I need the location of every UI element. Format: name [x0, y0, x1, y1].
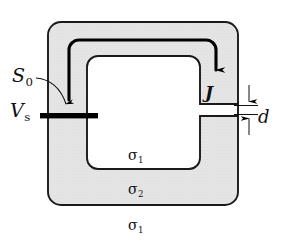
- label-current-density-j: J: [205, 84, 213, 101]
- conductor-body: [0, 0, 285, 248]
- label-sigma1-outer-subscript: 1: [138, 225, 144, 235]
- electrode-bar: [40, 113, 98, 118]
- label-source-voltage: Vs: [10, 101, 30, 120]
- label-conductivity-inner: σ1: [128, 148, 143, 162]
- label-gap-width-d: d: [258, 108, 270, 126]
- label-sigma2-subscript: 2: [138, 189, 144, 199]
- label-s0-subscript: 0: [26, 75, 34, 89]
- physics-diagram-figure: S0 Vs J d σ1 σ2 σ1: [0, 0, 285, 248]
- label-vs-subscript: s: [24, 110, 30, 124]
- label-conductivity-body: σ2: [128, 182, 143, 196]
- label-conductivity-outer: σ1: [128, 218, 143, 232]
- label-sigma1-inner-subscript: 1: [138, 155, 144, 165]
- diagram-canvas: [0, 0, 285, 248]
- label-surface-s0: S0: [12, 66, 33, 85]
